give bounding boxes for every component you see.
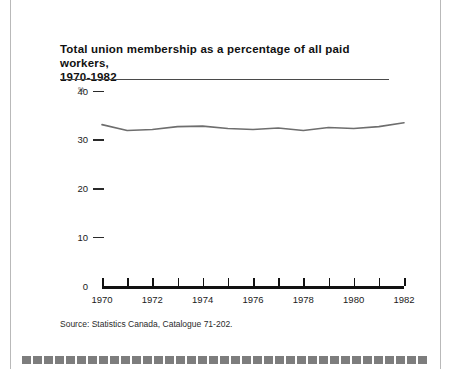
plot-area: % 010203040 1970197219741976197819801982 — [44, 32, 406, 318]
series-polyline — [102, 123, 404, 131]
decorative-border-top — [22, 10, 428, 32]
source-note: Source: Statistics Canada, Catalogue 71-… — [60, 319, 232, 329]
decorative-band-bottom — [22, 356, 428, 364]
decorative-border-left — [22, 32, 44, 318]
page-rule-left — [10, 0, 11, 369]
chart-panel: Total union membership as a percentage o… — [44, 32, 406, 318]
decorative-border-right — [406, 32, 428, 318]
page-rule-right — [440, 0, 441, 369]
series-line-chart — [44, 32, 406, 318]
page-background: Total union membership as a percentage o… — [0, 0, 451, 369]
figure-box: Total union membership as a percentage o… — [22, 10, 428, 340]
